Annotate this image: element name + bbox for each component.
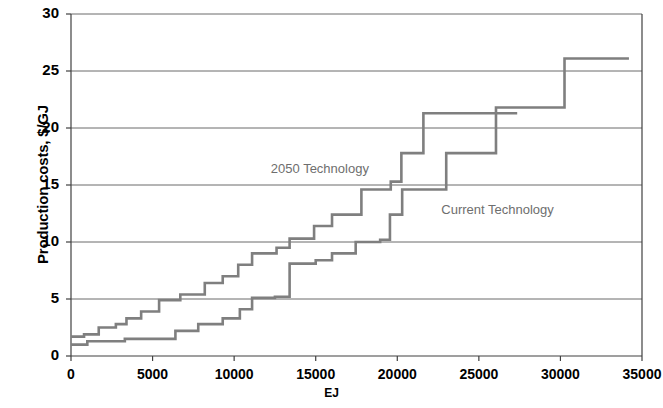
series-step-line-2050-technology: [71, 113, 517, 336]
x-tick-label: 5000: [113, 366, 193, 382]
x-axis-title: EJ: [0, 386, 663, 400]
production-cost-supply-curve-chart: Production costs, $/GJ EJ 302520151050 0…: [0, 0, 663, 408]
y-tick-label: 20: [19, 118, 59, 135]
x-tick-label: 30000: [520, 366, 600, 382]
x-tick-label: 0: [31, 366, 111, 382]
x-tick-label: 25000: [439, 366, 519, 382]
chart-canvas: [0, 0, 663, 408]
x-tick-label: 20000: [357, 366, 437, 382]
y-tick-label: 5: [19, 289, 59, 306]
series-label-current-technology: Current Technology: [441, 202, 554, 217]
x-tick-label: 15000: [276, 366, 356, 382]
x-tick-label: 35000: [602, 366, 663, 382]
y-tick-label: 25: [19, 61, 59, 78]
series-label-2050-technology: 2050 Technology: [271, 161, 369, 176]
y-tick-label: 10: [19, 232, 59, 249]
y-tick-label: 0: [19, 346, 59, 363]
y-tick-label: 15: [19, 175, 59, 192]
y-tick-label: 30: [19, 4, 59, 21]
x-tick-label: 10000: [194, 366, 274, 382]
